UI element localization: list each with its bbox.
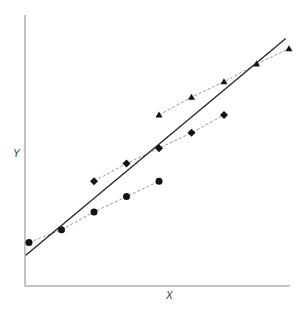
fit-line: [26, 39, 286, 256]
diamond-marker: [188, 129, 196, 137]
diamond-marker: [123, 159, 131, 167]
triangle-marker: [156, 112, 163, 118]
triangle-marker: [188, 94, 195, 100]
scatter-chart: [0, 0, 305, 315]
circle-marker: [91, 208, 98, 215]
circle-marker: [26, 239, 33, 246]
y-axis-label: Y: [13, 148, 20, 159]
triangle-marker: [221, 78, 228, 84]
triangle-marker: [286, 45, 293, 51]
circle-marker: [123, 193, 130, 200]
x-axis-label: X: [166, 290, 173, 301]
circle-marker: [156, 178, 163, 185]
diamond-marker: [155, 144, 163, 152]
diamond-marker: [220, 111, 228, 119]
diamond-marker: [90, 177, 98, 185]
